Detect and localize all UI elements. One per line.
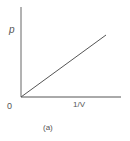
figure-caption: (a) — [43, 123, 53, 132]
x-axis-label: 1/V — [73, 100, 85, 109]
y-axis-label: p — [9, 24, 15, 35]
origin-label: 0 — [7, 101, 12, 111]
data-line — [21, 35, 106, 97]
chart-canvas — [0, 0, 130, 141]
